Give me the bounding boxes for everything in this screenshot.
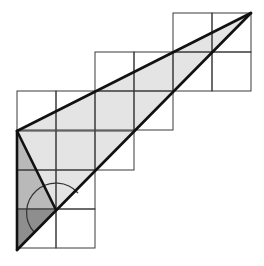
geometry-diagram — [0, 0, 264, 266]
grid-cell — [212, 52, 251, 91]
grid-cell — [56, 209, 95, 248]
